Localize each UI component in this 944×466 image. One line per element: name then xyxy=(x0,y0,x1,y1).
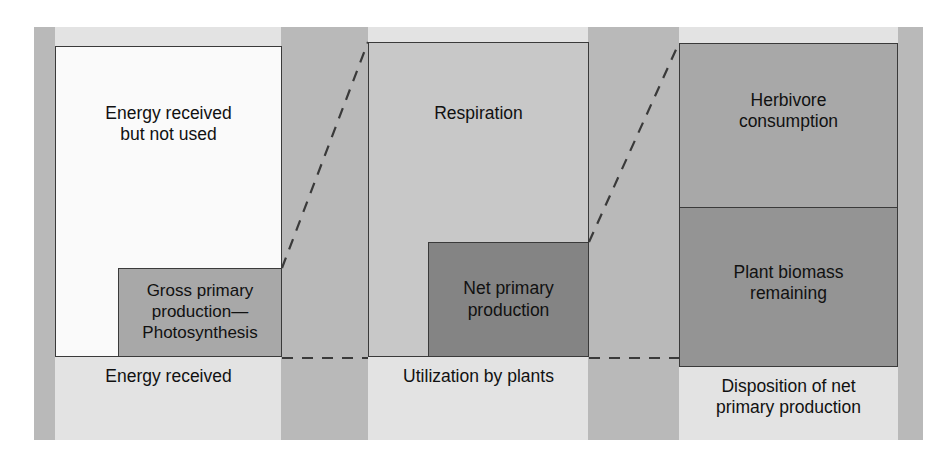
box-net-primary-production-label: Net primary production xyxy=(429,278,588,321)
box-net-primary-production: Net primary production xyxy=(428,242,589,357)
background-band-gap-1 xyxy=(281,27,368,440)
box-gross-primary-production: Gross primary production— Photosynthesis xyxy=(118,268,282,357)
box-plant-biomass-remaining: Plant biomass remaining xyxy=(679,207,898,367)
caption-disposition-of-net-primary-production: Disposition of net primary production xyxy=(665,376,912,419)
caption-energy-received: Energy received xyxy=(55,366,282,387)
background-band-left xyxy=(34,27,55,440)
energy-flow-diagram: Energy received but not used Gross prima… xyxy=(0,0,944,466)
box-plant-biomass-remaining-label: Plant biomass remaining xyxy=(680,208,897,305)
box-gross-primary-production-label: Gross primary production— Photosynthesis xyxy=(119,281,281,343)
box-herbivore-consumption: Herbivore consumption xyxy=(679,43,898,208)
box-herbivore-consumption-label: Herbivore consumption xyxy=(680,44,897,133)
box-respiration-label: Respiration xyxy=(369,43,588,124)
box-energy-received-but-not-used-label: Energy received but not used xyxy=(56,47,281,146)
caption-utilization-by-plants: Utilization by plants xyxy=(368,366,589,387)
